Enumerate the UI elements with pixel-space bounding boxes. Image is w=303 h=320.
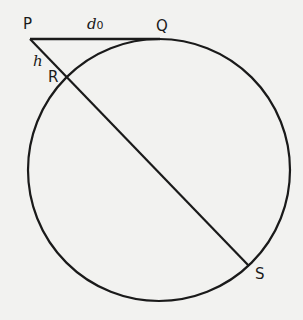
segment-label-h: h	[33, 54, 43, 69]
segment-label-d0: d0	[87, 17, 104, 32]
point-label-q: Q	[156, 19, 168, 34]
segment-label-d: d	[87, 15, 97, 33]
secant-segment-ps	[30, 39, 249, 266]
segment-label-subscript: 0	[97, 19, 104, 32]
point-label-r: R	[48, 70, 58, 85]
point-label-s: S	[255, 267, 265, 282]
point-label-p: P	[23, 17, 32, 32]
